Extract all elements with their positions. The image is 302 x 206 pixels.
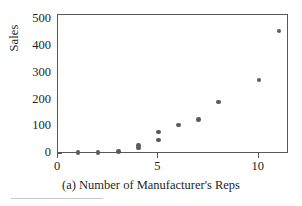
data-point (176, 123, 181, 128)
data-point (156, 138, 161, 143)
scatter-plot-figure: Sales 0100200300400500 0510 (a) Number o… (0, 0, 302, 206)
data-point (116, 149, 121, 154)
data-point (136, 143, 141, 148)
x-axis-tick (157, 153, 158, 158)
footnote-rule (11, 198, 103, 199)
y-axis-tick-label: 300 (13, 66, 51, 79)
x-axis-tick (258, 153, 259, 158)
y-axis-tick-label: 0 (13, 146, 51, 159)
y-axis-tick-label: 500 (13, 12, 51, 25)
data-point (96, 150, 101, 155)
data-point (216, 100, 221, 105)
data-point (257, 78, 262, 83)
data-point (76, 150, 81, 155)
x-axis-tick-label: 0 (42, 160, 72, 173)
data-point (156, 130, 161, 135)
y-axis-tick-label: 200 (13, 93, 51, 106)
y-axis-tick-label: 400 (13, 39, 51, 52)
x-axis-tick (57, 153, 58, 158)
y-axis-tick-label: 100 (13, 119, 51, 132)
data-point (277, 29, 282, 34)
x-axis-tick-label: 5 (142, 160, 172, 173)
data-points-layer (58, 15, 287, 152)
data-point (196, 117, 201, 122)
plot-area (57, 14, 288, 153)
x-axis-tick-label: 10 (243, 160, 273, 173)
figure-caption: (a) Number of Manufacturer's Reps (0, 178, 302, 192)
